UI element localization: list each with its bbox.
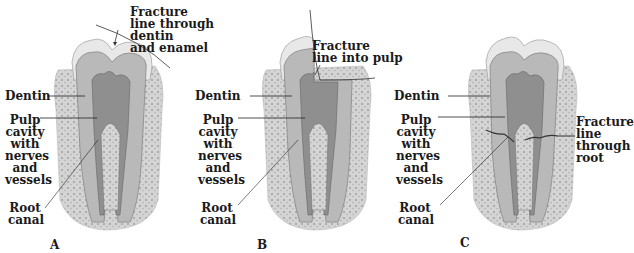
tooth-diagram-b: [210, 0, 420, 253]
panel-c: Fracture line through root Dentin Pulp c…: [420, 0, 630, 253]
dentin-label-a: Dentin: [5, 90, 51, 102]
panel-label-c: C: [460, 236, 470, 250]
dentin-label-c: Dentin: [394, 90, 440, 102]
fracture-label-a: Fracture line through dentin and enamel: [130, 6, 214, 54]
pulp-label-c: Pulp cavity with nerves and vessels: [396, 114, 436, 186]
root-canal-label-b: Root canal: [200, 202, 234, 226]
panel-label-b: B: [257, 238, 267, 252]
panel-a: Fracture line through dentin and enamel …: [0, 0, 210, 253]
fracture-label-c: Fracture line through root: [576, 116, 634, 164]
root-canal-label-a: Root canal: [8, 202, 42, 226]
fracture-label-b: Fracture line into pulp: [312, 40, 403, 64]
panel-label-a: A: [50, 238, 59, 252]
root-canal-label-c: Root canal: [398, 202, 432, 226]
pulp-label-a: Pulp cavity with nerves and vessels: [5, 114, 45, 186]
pulp-label-b: Pulp cavity with nerves and vessels: [198, 114, 238, 186]
dentin-label-b: Dentin: [195, 90, 241, 102]
panel-b: Fracture line into pulp Dentin Pulp cavi…: [210, 0, 420, 253]
